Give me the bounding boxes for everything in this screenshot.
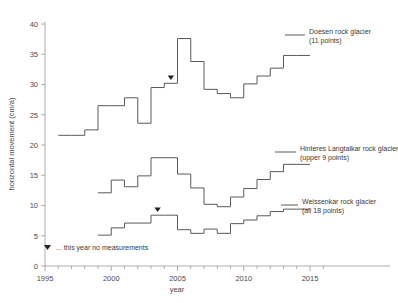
footnote-group: ... this year no measurements <box>44 244 149 252</box>
legend-layer: Doesen rock glacier(11 points)Hinteres L… <box>275 28 398 215</box>
y-axis-title: horizontal movement (cm/a) <box>7 97 16 190</box>
y-tick-label: 5 <box>34 232 38 241</box>
x-axis-title: year <box>170 285 185 294</box>
step-chart-svg: 0510152025303540 horizontal movement (cm… <box>0 0 398 303</box>
series-line-1 <box>98 158 310 207</box>
y-tick-label: 15 <box>30 171 38 180</box>
legend-label-1: Hinteres Langtalkar rock glacier <box>300 145 398 153</box>
legend-label-0: Doesen rock glacier <box>309 28 372 36</box>
series-layer <box>58 39 310 236</box>
legend-sublabel-1: (upper 9 points) <box>300 154 349 162</box>
chart-container: 0510152025303540 horizontal movement (cm… <box>0 0 398 303</box>
footnote-text: ... this year no measurements <box>56 244 149 252</box>
x-tick-label: 1995 <box>37 274 54 283</box>
x-axis-group: 19952000200520102015 year <box>37 266 390 294</box>
no-measurement-marker-layer <box>154 75 174 211</box>
y-axis-group: 0510152025303540 horizontal movement (cm… <box>7 20 45 271</box>
y-tick-label: 40 <box>30 20 38 29</box>
legend-label-2: Weissenkar rock glacier <box>302 198 377 206</box>
y-tick-label: 10 <box>30 201 38 210</box>
x-tick-label: 2000 <box>103 274 120 283</box>
x-tick-group: 19952000200520102015 <box>37 266 324 283</box>
y-tick-label: 0 <box>34 262 38 271</box>
y-tick-group: 0510152025303540 <box>30 20 45 271</box>
y-tick-label: 20 <box>30 141 38 150</box>
series-line-2 <box>98 209 310 235</box>
y-tick-label: 35 <box>30 50 38 59</box>
y-tick-label: 30 <box>30 80 38 89</box>
no-measurement-triangle-icon <box>168 75 174 80</box>
legend-sublabel-0: (11 points) <box>309 37 342 45</box>
y-tick-label: 25 <box>30 111 38 120</box>
series-line-0 <box>58 39 310 136</box>
legend-sublabel-2: (all 18 points) <box>302 207 344 215</box>
x-tick-label: 2015 <box>302 274 319 283</box>
no-measurement-triangle-icon <box>154 207 160 212</box>
x-tick-label: 2010 <box>235 274 252 283</box>
x-tick-label: 2005 <box>169 274 186 283</box>
